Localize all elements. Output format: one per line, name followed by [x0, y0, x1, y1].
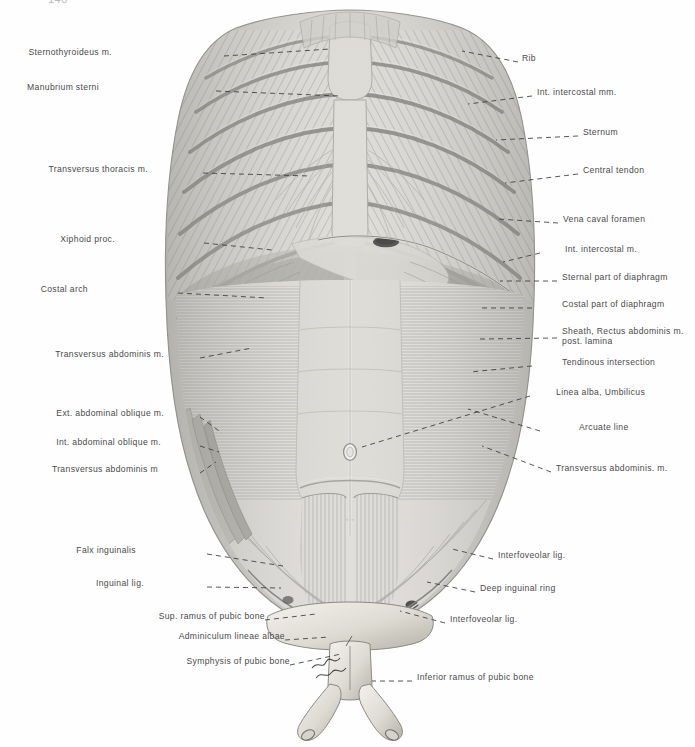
- label-sternal-part-of-diaphragm: Sternal part of diaphragm: [562, 272, 668, 282]
- label-rib: Rib: [522, 53, 536, 63]
- label-costal-arch: Costal arch: [12, 284, 88, 294]
- label-inguinal-lig: Inguinal lig.: [12, 578, 144, 588]
- label-ext-abdominal-oblique-m: Ext. abdominal oblique m.: [12, 408, 164, 418]
- label-central-tendon: Central tendon: [583, 165, 644, 175]
- label-inferior-ramus-of-pubic-bone: Inferior ramus of pubic bone: [417, 672, 534, 682]
- plate-page: 140: [0, 0, 695, 747]
- label-int-intercostal-m: Int. intercostal m.: [565, 244, 637, 254]
- label-int-intercostal-mm: Int. intercostal mm.: [537, 87, 617, 97]
- label-manubrium-sterni: Manubrium sterni: [12, 82, 99, 92]
- label-interfoveolar-lig-lower: Interfoveolar lig.: [450, 614, 517, 624]
- label-vena-caval-foramen: Vena caval foramen: [563, 214, 645, 224]
- label-xiphoid-proc: Xiphoid proc.: [12, 234, 115, 244]
- label-adminiculum-lineae-albae: Adminiculum lineae albae: [12, 631, 285, 641]
- label-arcuate-line: Arcuate line: [579, 422, 629, 432]
- label-transversus-abdominis-m-lower: Transversus abdominis m: [12, 464, 158, 474]
- label-costal-part-of-diaphragm: Costal part of diaphragm: [562, 299, 665, 309]
- label-falx-inguinalis: Falx inguinalis: [12, 545, 136, 555]
- label-sternum: Sternum: [583, 127, 618, 137]
- label-transversus-abdominis-m-right: Transversus abdominis. m.: [556, 463, 668, 473]
- label-sup-ramus-of-pubic-bone: Sup. ramus of pubic bone: [12, 611, 265, 621]
- label-symphysis-of-pubic-bone: Symphysis of pubic bone: [12, 656, 290, 666]
- label-rectus-sheath-post-lamina-line2: post. lamina: [562, 336, 613, 346]
- label-linea-alba-umbilicus: Linea alba, Umbilicus: [556, 387, 645, 397]
- label-transversus-thoracis-m: Transversus thoracis m.: [12, 164, 148, 174]
- label-tendinous-intersection: Tendinous intersection: [562, 357, 655, 367]
- label-deep-inguinal-ring: Deep inguinal ring: [480, 583, 556, 593]
- label-int-abdominal-oblique-m: Int. abdominal oblique m.: [12, 437, 161, 447]
- trunk-body: [150, 0, 550, 665]
- label-interfoveolar-lig-upper: Interfoveolar lig.: [498, 550, 565, 560]
- label-transversus-abdominis-m-upper: Transversus abdominis m.: [12, 349, 164, 359]
- label-sternothyroideus-m: Sternothyroideus m.: [12, 47, 112, 57]
- pubic-bone: [267, 602, 433, 742]
- label-rectus-sheath-post-lamina-line1: Sheath, Rectus abdominis m.: [562, 326, 684, 336]
